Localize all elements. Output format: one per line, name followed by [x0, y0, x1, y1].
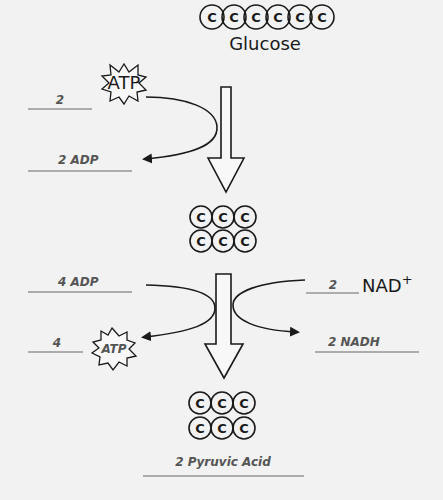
- carbon-atom: C: [190, 230, 212, 252]
- svg-text:C: C: [240, 210, 250, 225]
- carbon-atom: C: [234, 230, 256, 252]
- atp-in-label: ATP: [108, 72, 141, 93]
- nad-in-label: NAD+: [362, 272, 413, 296]
- carbon-atom: C: [310, 5, 334, 29]
- svg-text:C: C: [195, 396, 205, 411]
- svg-text:C: C: [229, 10, 239, 25]
- svg-text:C: C: [317, 10, 327, 25]
- glycolysis-diagram: C C C C C C Glucose 2 ATP 2 ADP C C C C …: [0, 0, 443, 500]
- svg-text:C: C: [195, 421, 205, 436]
- carbon-atom: C: [244, 5, 268, 29]
- carbon-atom: C: [212, 230, 234, 252]
- down-arrow-icon: [205, 274, 243, 378]
- atp-to-adp-curve-arrow: [146, 97, 217, 159]
- svg-text:C: C: [196, 210, 206, 225]
- carbon-atom: C: [222, 5, 246, 29]
- glucose-carbon-chain: C C C C C C: [200, 5, 334, 29]
- glucose-label: Glucose: [229, 33, 301, 54]
- atp-out-count: 4: [52, 336, 61, 350]
- atp-out-label: ATP: [100, 342, 126, 356]
- svg-text:C: C: [239, 396, 249, 411]
- svg-text:C: C: [217, 396, 227, 411]
- carbon-atom: C: [190, 206, 212, 228]
- svg-text:C: C: [239, 421, 249, 436]
- svg-text:C: C: [207, 10, 217, 25]
- svg-text:C: C: [218, 234, 228, 249]
- svg-text:C: C: [295, 10, 305, 25]
- nadh-out-label: 2 NADH: [328, 335, 380, 349]
- svg-text:C: C: [217, 421, 227, 436]
- carbon-atom: C: [211, 392, 233, 414]
- intermediate-carbons: C C C C C C: [190, 206, 256, 252]
- pyruvic-acid-carbons: C C C C C C: [189, 392, 255, 439]
- pyruvic-acid-label: 2 Pyruvic Acid: [175, 455, 271, 469]
- carbon-atom: C: [212, 206, 234, 228]
- svg-text:C: C: [273, 10, 283, 25]
- carbon-atom: C: [189, 417, 211, 439]
- carbon-atom: C: [233, 392, 255, 414]
- carbon-atom: C: [200, 5, 224, 29]
- adp-out-label: 2 ADP: [58, 153, 99, 167]
- atp-in-count: 2: [56, 93, 64, 107]
- adp-in-label: 4 ADP: [57, 275, 99, 289]
- carbon-atom: C: [233, 417, 255, 439]
- carbon-atom: C: [234, 206, 256, 228]
- carbon-atom: C: [211, 417, 233, 439]
- svg-text:C: C: [251, 10, 261, 25]
- carbon-atom: C: [266, 5, 290, 29]
- svg-text:C: C: [196, 234, 206, 249]
- adp-to-atp-curve-arrow: [145, 285, 215, 337]
- nad-in-count: 2: [329, 278, 337, 292]
- carbon-atom: C: [288, 5, 312, 29]
- carbon-atom: C: [189, 392, 211, 414]
- svg-text:C: C: [240, 234, 250, 249]
- nad-to-nadh-curve-arrow: [233, 280, 305, 332]
- svg-text:C: C: [218, 210, 228, 225]
